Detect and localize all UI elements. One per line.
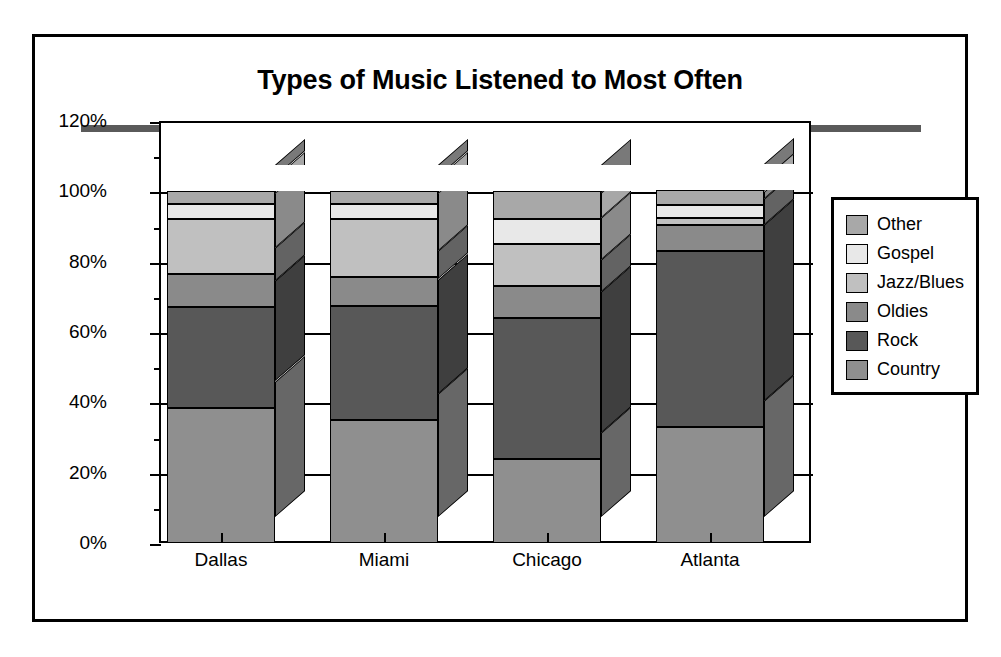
- bar-segment-chicago-jazz-blues[interactable]: [493, 244, 601, 286]
- y-tick-major: [150, 333, 161, 335]
- bar-segment-chicago-oldies[interactable]: [493, 286, 601, 318]
- bar-group-miami[interactable]: [330, 121, 468, 543]
- bar-segment-chicago-rock[interactable]: [493, 318, 601, 459]
- bar-top-face-miami: [438, 165, 468, 191]
- y-tick-major: [150, 263, 161, 265]
- legend-label: Country: [877, 359, 940, 380]
- x-tick-label-chicago: Chicago: [463, 549, 631, 571]
- y-tick-label: 20%: [27, 462, 107, 484]
- y-tick-label: 120%: [27, 110, 107, 132]
- x-tick-label-dallas: Dallas: [137, 549, 305, 571]
- legend-label: Jazz/Blues: [877, 272, 964, 293]
- chart-title: Types of Music Listened to Most Often: [35, 65, 965, 96]
- y-tick-minor: [154, 298, 161, 300]
- bar-side-chicago-rock: [601, 266, 631, 433]
- bar-segment-chicago-gospel[interactable]: [493, 219, 601, 244]
- bar-segment-dallas-rock[interactable]: [167, 307, 275, 407]
- y-tick-major: [150, 403, 161, 405]
- legend-item-country[interactable]: Country: [846, 355, 976, 384]
- chart-frame: Types of Music Listened to Most Often 0%…: [32, 34, 968, 622]
- y-tick-minor: [154, 228, 161, 230]
- y-tick-minor: [154, 157, 161, 159]
- legend-item-jazz-blues[interactable]: Jazz/Blues: [846, 268, 976, 297]
- legend-label: Rock: [877, 330, 918, 351]
- bar-segment-miami-country[interactable]: [330, 420, 438, 543]
- x-tick-mark: [710, 533, 712, 542]
- y-tick-label: 0%: [27, 532, 107, 554]
- legend-swatch-icon: [846, 360, 868, 380]
- legend-label: Other: [877, 214, 922, 235]
- legend-swatch-icon: [846, 273, 868, 293]
- legend-swatch-icon: [846, 215, 868, 235]
- bar-side-dallas-country: [275, 356, 305, 517]
- bar-segment-miami-rock[interactable]: [330, 306, 438, 420]
- bar-segment-atlanta-rock[interactable]: [656, 251, 764, 427]
- legend-item-gospel[interactable]: Gospel: [846, 239, 976, 268]
- bar-top-face-dallas: [275, 165, 305, 191]
- chart-page: Types of Music Listened to Most Often 0%…: [0, 0, 1001, 657]
- bar-segment-miami-gospel[interactable]: [330, 204, 438, 220]
- bar-segment-dallas-jazz-blues[interactable]: [167, 219, 275, 274]
- bar-group-dallas[interactable]: [167, 121, 305, 543]
- legend-label: Oldies: [877, 301, 928, 322]
- y-tick-minor: [154, 509, 161, 511]
- bar-side-atlanta-rock: [764, 199, 794, 401]
- bar-segment-atlanta-other[interactable]: [656, 190, 764, 206]
- y-tick-minor: [154, 439, 161, 441]
- y-tick-major: [150, 474, 161, 476]
- bar-group-chicago[interactable]: [493, 121, 631, 543]
- bar-segment-dallas-oldies[interactable]: [167, 274, 275, 307]
- y-tick-major: [150, 122, 161, 124]
- bar-segment-atlanta-oldies[interactable]: [656, 225, 764, 251]
- bar-top-face-atlanta: [764, 164, 794, 190]
- y-tick-label: 40%: [27, 391, 107, 413]
- bar-segment-atlanta-jazz-blues[interactable]: [656, 218, 764, 225]
- bar-segment-miami-oldies[interactable]: [330, 277, 438, 305]
- legend-item-oldies[interactable]: Oldies: [846, 297, 976, 326]
- bar-top-face-chicago: [601, 165, 631, 191]
- y-tick-label: 100%: [27, 180, 107, 202]
- plot-area: 0%20%40%60%80%100%120% DallasMiamiChicag…: [113, 121, 813, 561]
- bar-segment-miami-other[interactable]: [330, 191, 438, 203]
- bar-segment-miami-jazz-blues[interactable]: [330, 219, 438, 277]
- bar-segment-dallas-other[interactable]: [167, 191, 275, 203]
- y-tick-minor: [154, 368, 161, 370]
- bar-segment-dallas-country[interactable]: [167, 408, 275, 543]
- y-tick-major: [150, 544, 161, 546]
- y-tick-label: 60%: [27, 321, 107, 343]
- x-tick-mark: [547, 533, 549, 542]
- legend-item-rock[interactable]: Rock: [846, 326, 976, 355]
- legend-item-other[interactable]: Other: [846, 210, 976, 239]
- legend-label: Gospel: [877, 243, 934, 264]
- bar-segment-atlanta-country[interactable]: [656, 427, 764, 543]
- legend: OtherGospelJazz/BluesOldiesRockCountry: [831, 197, 979, 395]
- bar-segment-chicago-country[interactable]: [493, 459, 601, 543]
- x-tick-mark: [221, 533, 223, 542]
- y-tick-label: 80%: [27, 251, 107, 273]
- legend-swatch-icon: [846, 302, 868, 322]
- bar-segment-dallas-gospel[interactable]: [167, 204, 275, 220]
- legend-swatch-icon: [846, 244, 868, 264]
- bar-segment-chicago-other[interactable]: [493, 191, 601, 219]
- legend-swatch-icon: [846, 331, 868, 351]
- bar-group-atlanta[interactable]: [656, 121, 794, 543]
- x-tick-label-atlanta: Atlanta: [626, 549, 794, 571]
- x-tick-mark: [384, 533, 386, 542]
- bar-segment-atlanta-gospel[interactable]: [656, 205, 764, 217]
- x-tick-label-miami: Miami: [300, 549, 468, 571]
- y-tick-major: [150, 192, 161, 194]
